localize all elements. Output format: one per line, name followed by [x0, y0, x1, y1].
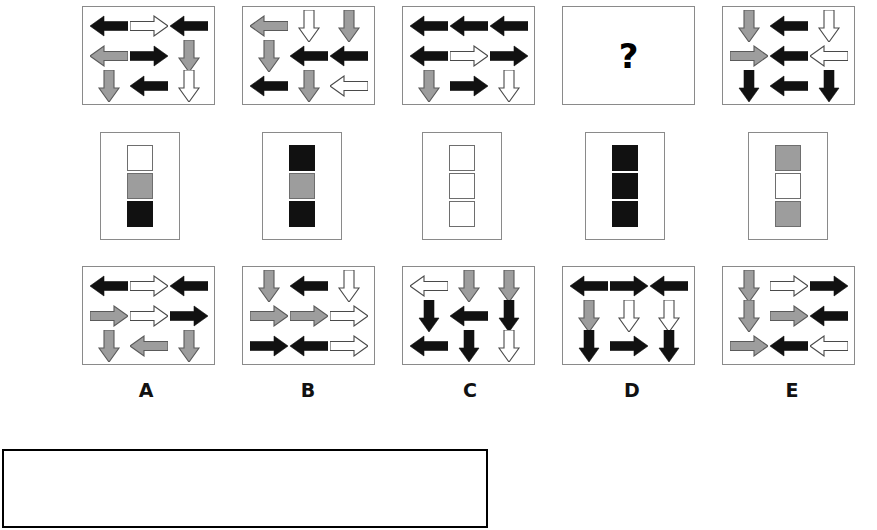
square-gray [127, 173, 153, 199]
arrow-left-black-icon [129, 71, 169, 101]
arrow-left-white-icon [809, 331, 849, 361]
arrow-right-white-icon [769, 271, 809, 301]
arrow-left-gray-icon [89, 41, 129, 71]
arrow-down-black-icon [729, 71, 769, 101]
square-white [449, 173, 475, 199]
arrow-down-white-icon [609, 301, 649, 331]
arrow-down-white-icon [649, 301, 689, 331]
arrow-left-black-icon [769, 11, 809, 41]
arrow-down-white-icon [809, 11, 849, 41]
arrow-right-gray-icon [249, 301, 289, 331]
arrow-down-black-icon [489, 301, 529, 331]
arrow-left-black-icon [169, 271, 209, 301]
arrow-down-black-icon [569, 331, 609, 361]
arrow-right-black-icon [249, 331, 289, 361]
arrow-left-black-icon [289, 331, 329, 361]
stimulus-panel-5[interactable] [722, 6, 855, 105]
arrow-down-gray-icon [409, 71, 449, 101]
response-area[interactable] [2, 449, 488, 528]
arrow-left-black-icon [769, 71, 809, 101]
arrow-down-black-icon [449, 331, 489, 361]
arrow-right-black-icon [609, 331, 649, 361]
arrow-down-white-icon [289, 11, 329, 41]
arrow-left-black-icon [449, 301, 489, 331]
square-gray [775, 145, 801, 171]
arrow-down-gray-icon [489, 271, 529, 301]
arrow-right-gray-icon [769, 301, 809, 331]
square-black [289, 201, 315, 227]
arrow-right-white-icon [329, 301, 369, 331]
puzzle-stage: ?ABCDE [0, 0, 877, 530]
arrow-down-gray-icon [249, 271, 289, 301]
arrow-right-white-icon [129, 271, 169, 301]
arrow-down-gray-icon [169, 331, 209, 361]
arrow-down-gray-icon [89, 331, 129, 361]
option-label-B[interactable]: B [288, 379, 328, 401]
square-black [612, 173, 638, 199]
arrow-right-black-icon [129, 41, 169, 71]
arrow-left-black-icon [649, 271, 689, 301]
arrow-right-gray-icon [729, 331, 769, 361]
arrow-right-white-icon [129, 11, 169, 41]
option-label-E[interactable]: E [772, 379, 812, 401]
option-label-D[interactable]: D [612, 379, 652, 401]
arrow-left-black-icon [249, 71, 289, 101]
arrow-right-gray-icon [729, 41, 769, 71]
arrow-right-white-icon [129, 301, 169, 331]
arrow-right-gray-icon [289, 301, 329, 331]
arrow-right-black-icon [609, 271, 649, 301]
stimulus-panel-1[interactable] [82, 6, 215, 105]
option-panel-A[interactable] [82, 266, 215, 365]
arrow-left-black-icon [809, 301, 849, 331]
arrow-left-white-icon [409, 271, 449, 301]
arrow-down-white-icon [489, 71, 529, 101]
arrow-down-gray-icon [89, 71, 129, 101]
arrow-down-gray-icon [729, 301, 769, 331]
square-strip-panel-1[interactable] [100, 132, 180, 240]
arrow-right-white-icon [329, 331, 369, 361]
square-strip-panel-5[interactable] [748, 132, 828, 240]
square-strip-panel-4[interactable] [585, 132, 665, 240]
question-panel[interactable]: ? [562, 6, 695, 105]
option-panel-B[interactable] [242, 266, 375, 365]
arrow-left-black-icon [769, 331, 809, 361]
stimulus-panel-2[interactable] [242, 6, 375, 105]
square-black [612, 201, 638, 227]
arrow-right-gray-icon [89, 301, 129, 331]
square-strip-panel-2[interactable] [262, 132, 342, 240]
arrow-down-white-icon [489, 331, 529, 361]
arrow-left-black-icon [89, 11, 129, 41]
square-white [449, 201, 475, 227]
arrow-down-gray-icon [329, 11, 369, 41]
arrow-left-black-icon [409, 331, 449, 361]
arrow-left-white-icon [329, 71, 369, 101]
square-strip-panel-3[interactable] [422, 132, 502, 240]
arrow-down-gray-icon [729, 271, 769, 301]
option-panel-E[interactable] [722, 266, 855, 365]
arrow-left-black-icon [569, 271, 609, 301]
square-white [449, 145, 475, 171]
arrow-down-white-icon [169, 71, 209, 101]
arrow-down-gray-icon [569, 301, 609, 331]
square-black [127, 201, 153, 227]
arrow-right-black-icon [489, 41, 529, 71]
arrow-right-black-icon [169, 301, 209, 331]
arrow-down-black-icon [809, 71, 849, 101]
stimulus-panel-3[interactable] [402, 6, 535, 105]
option-panel-C[interactable] [402, 266, 535, 365]
square-black [612, 145, 638, 171]
option-panel-D[interactable] [562, 266, 695, 365]
arrow-left-black-icon [409, 41, 449, 71]
arrow-left-gray-icon [249, 11, 289, 41]
arrow-left-black-icon [489, 11, 529, 41]
square-white [775, 173, 801, 199]
arrow-down-gray-icon [249, 41, 289, 71]
arrow-down-gray-icon [449, 271, 489, 301]
arrow-left-black-icon [409, 11, 449, 41]
arrow-left-white-icon [809, 41, 849, 71]
arrow-right-black-icon [809, 271, 849, 301]
square-black [289, 145, 315, 171]
option-label-A[interactable]: A [126, 379, 166, 401]
arrow-left-black-icon [89, 271, 129, 301]
option-label-C[interactable]: C [450, 379, 490, 401]
